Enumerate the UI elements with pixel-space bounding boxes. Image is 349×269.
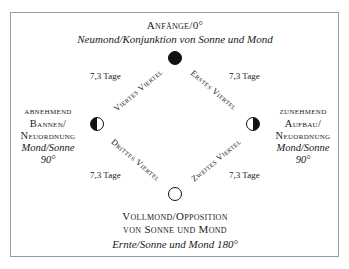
- last-quarter-moon-icon: [90, 117, 104, 131]
- new-moon-title: Anfänge/0°: [147, 20, 203, 31]
- waxing-line3: Neuordnung: [276, 131, 331, 142]
- duration-bottom-left: 7,3 Tage: [90, 170, 121, 180]
- duration-top-left: 7,3 Tage: [90, 71, 121, 81]
- waxing-line4: Mond/Sonne: [276, 143, 329, 154]
- waxing-line2: Aufbau/: [285, 119, 321, 130]
- waning-line4: Mond/Sonne: [21, 143, 74, 154]
- full-moon-caption: Ernte/Sonne und Mond 180°: [112, 239, 238, 250]
- waning-label: abnehmend: [24, 107, 71, 117]
- waxing-angle: 90°: [296, 155, 311, 166]
- waning-line3: Neuordnung: [21, 131, 76, 142]
- duration-bottom-right: 7,3 Tage: [229, 170, 260, 180]
- duration-top-right: 7,3 Tage: [229, 71, 260, 81]
- new-moon-icon: [168, 51, 182, 65]
- waxing-label: zunehmend: [279, 107, 326, 117]
- full-moon-subtitle: von Sonne und Mond: [123, 224, 227, 235]
- full-moon-icon: [168, 187, 182, 201]
- new-moon-subtitle: Neumond/Konjunktion von Sonne und Mond: [77, 34, 273, 45]
- waning-angle: 90°: [41, 155, 56, 166]
- waning-line2: Bannen/: [30, 119, 67, 130]
- first-quarter-moon-icon: [246, 117, 260, 131]
- full-moon-title: Vollmond/Opposition: [122, 211, 228, 222]
